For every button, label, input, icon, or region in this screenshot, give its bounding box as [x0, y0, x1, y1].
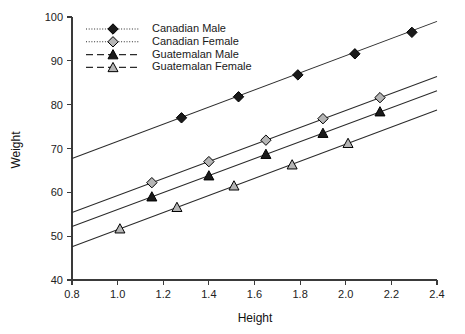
y-tick-label: 80	[51, 99, 63, 111]
x-tick-label: 1.0	[110, 288, 125, 300]
legend-label: Guatemalan Male	[152, 48, 239, 60]
y-tick-label: 100	[45, 11, 63, 23]
chart-svg: 4050607080901000.81.01.21.41.61.82.02.22…	[0, 0, 465, 334]
y-tick-label: 60	[51, 186, 63, 198]
legend-label: Canadian Female	[152, 35, 239, 47]
x-tick-label: 1.4	[201, 288, 216, 300]
x-tick-label: 1.8	[292, 288, 307, 300]
y-tick-label: 90	[51, 55, 63, 67]
y-tick-label: 40	[51, 274, 63, 286]
x-tick-label: 0.8	[64, 288, 79, 300]
x-tick-label: 1.6	[247, 288, 262, 300]
x-tick-label: 2.4	[429, 288, 444, 300]
x-tick-label: 1.2	[156, 288, 171, 300]
weight-vs-height-chart: 4050607080901000.81.01.21.41.61.82.02.22…	[0, 0, 465, 334]
x-axis-title: Height	[238, 311, 273, 325]
y-axis-title: Weight	[9, 131, 23, 169]
y-tick-label: 50	[51, 230, 63, 242]
x-tick-label: 2.0	[338, 288, 353, 300]
legend-label: Guatemalan Female	[152, 60, 252, 72]
x-tick-label: 2.2	[384, 288, 399, 300]
legend-label: Canadian Male	[152, 22, 226, 34]
y-tick-label: 70	[51, 143, 63, 155]
